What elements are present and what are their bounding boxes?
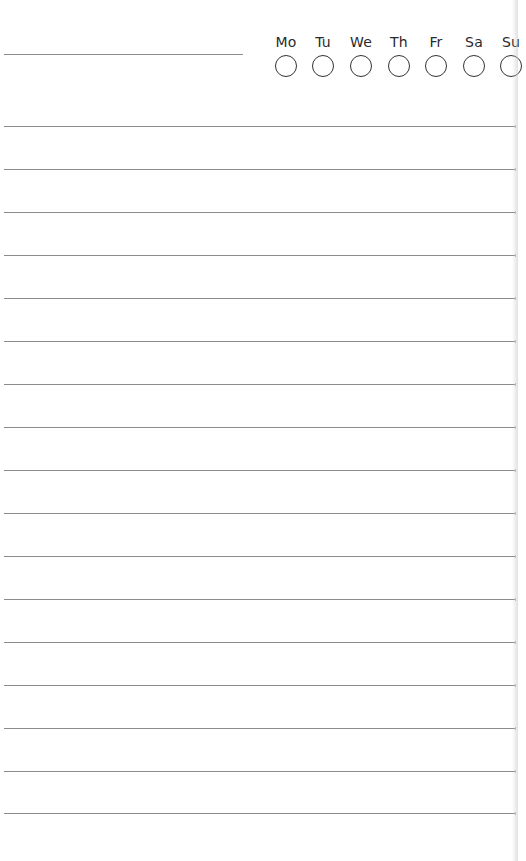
ruled-write-line[interactable]: [4, 427, 515, 428]
ruled-write-line[interactable]: [4, 642, 515, 643]
ruled-write-line[interactable]: [4, 470, 515, 471]
ruled-write-line[interactable]: [4, 341, 515, 342]
ruled-write-line[interactable]: [4, 298, 515, 299]
ruled-write-line[interactable]: [4, 771, 515, 772]
page-edge-shadow: [512, 0, 518, 861]
ruled-write-line[interactable]: [4, 255, 515, 256]
ruled-write-line[interactable]: [4, 599, 515, 600]
ruled-write-line[interactable]: [4, 169, 515, 170]
ruled-write-line[interactable]: [4, 126, 515, 127]
ruled-write-line[interactable]: [4, 556, 515, 557]
ruled-write-line[interactable]: [4, 384, 515, 385]
ruled-write-line[interactable]: [4, 212, 515, 213]
ruled-write-line[interactable]: [4, 685, 515, 686]
ruled-write-line[interactable]: [4, 513, 515, 514]
ruled-write-line[interactable]: [4, 728, 515, 729]
ruled-write-line[interactable]: [4, 813, 515, 814]
